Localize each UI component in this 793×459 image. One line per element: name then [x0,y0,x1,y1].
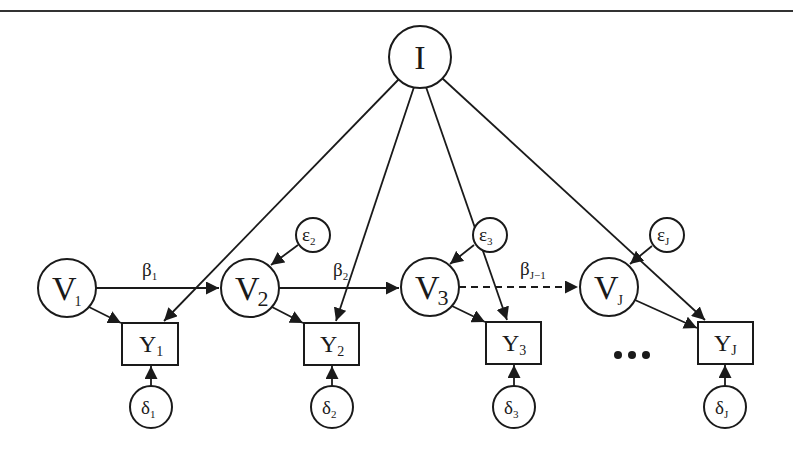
path-diagram: β1 β2 βJ−1 I V1 V2 V3 VJ Y1 Y2 Y3 YJ [0,0,793,459]
latent-node-v3: V3 [401,258,459,316]
edge-label-beta1: β1 [142,259,157,282]
error-edges [151,365,725,386]
disturbance-node-eJ: εJ [650,218,684,252]
error-node-d2: δ2 [311,386,353,428]
error-node-dJ: δJ [704,386,746,428]
intercept-node: I [389,26,451,88]
autoregressive-edges [96,287,578,288]
latent-node-v1: V1 [38,259,96,317]
ellipsis-dots [614,351,650,359]
svg-text:I: I [414,39,425,76]
edge-label-betaJ-1: βJ−1 [520,258,546,281]
observed-node-y1: Y1 [122,323,178,365]
error-node-d3: δ3 [493,386,535,428]
observed-node-yJ: YJ [698,322,753,364]
observed-node-y2: Y2 [304,323,359,365]
latent-node-vJ: VJ [580,258,638,316]
observed-node-y3: Y3 [486,322,541,364]
disturbance-node-e3: ε3 [473,218,507,252]
disturbance-node-e2: ε2 [296,218,330,252]
error-node-d1: δ1 [130,386,172,428]
edge-label-beta2: β2 [333,259,348,282]
latent-node-v2: V2 [221,259,279,317]
